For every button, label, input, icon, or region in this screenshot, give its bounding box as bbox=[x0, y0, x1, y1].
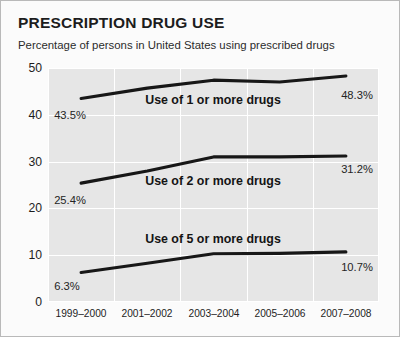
value-label-end-5-or-more: 10.7% bbox=[341, 261, 373, 273]
series-line-5-or-more bbox=[81, 252, 346, 273]
y-tick-label: 30 bbox=[9, 155, 42, 169]
x-tick-label: 2005–2006 bbox=[255, 308, 306, 319]
chart-figure: PRESCRIPTION DRUG USE Percentage of pers… bbox=[0, 0, 400, 337]
value-label-start-5-or-more: 6.3% bbox=[54, 280, 80, 292]
y-tick-label: 20 bbox=[9, 201, 42, 215]
value-label-start-2-or-more: 25.4% bbox=[54, 194, 86, 206]
y-tick-label: 0 bbox=[9, 295, 42, 309]
chart-subtitle: Percentage of persons in United States u… bbox=[18, 39, 335, 51]
value-label-end-1-or-more: 48.3% bbox=[341, 89, 373, 101]
value-label-start-1-or-more: 43.5% bbox=[54, 109, 86, 121]
chart-title: PRESCRIPTION DRUG USE bbox=[18, 14, 225, 32]
y-tick-label: 40 bbox=[9, 108, 42, 122]
series-label-1-or-more: Use of 1 or more drugs bbox=[145, 93, 281, 107]
x-tick-label: 2007–2008 bbox=[321, 308, 372, 319]
x-tick-label: 2003–2004 bbox=[189, 308, 240, 319]
x-tick-label: 1999–2000 bbox=[56, 308, 107, 319]
y-tick-label: 10 bbox=[9, 248, 42, 262]
value-label-end-2-or-more: 31.2% bbox=[341, 163, 373, 175]
series-label-2-or-more: Use of 2 or more drugs bbox=[145, 174, 281, 188]
y-tick-label: 50 bbox=[9, 61, 42, 75]
x-tick-label: 2001–2002 bbox=[122, 308, 173, 319]
series-label-5-or-more: Use of 5 or more drugs bbox=[145, 232, 281, 246]
